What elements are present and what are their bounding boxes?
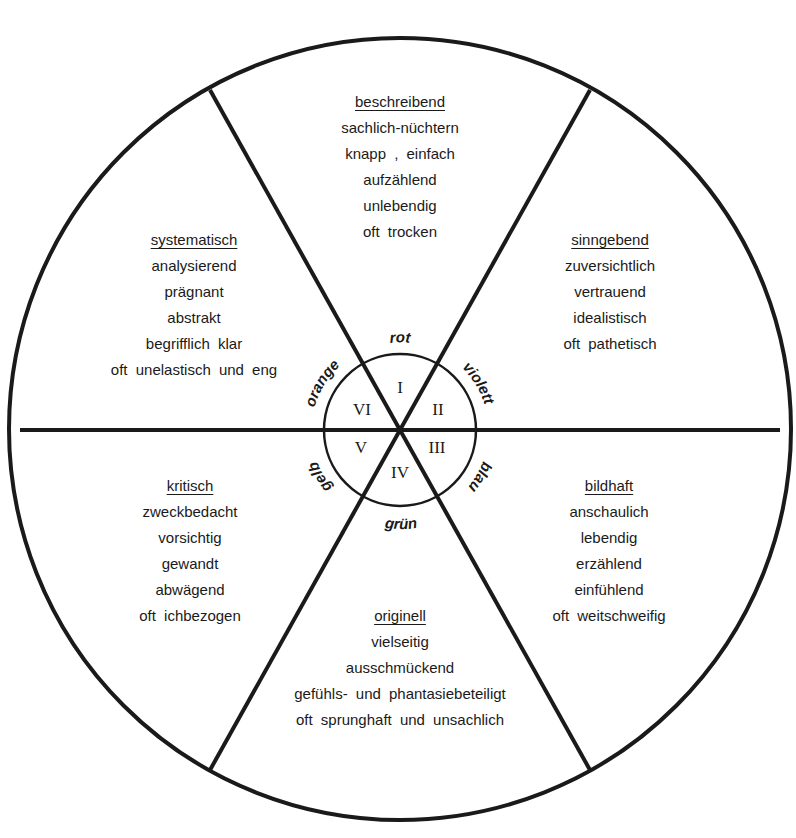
- color-label-rot: rot: [389, 328, 412, 346]
- sector-trait: idealistisch: [563, 305, 656, 331]
- sector-trait: abwägend: [139, 577, 241, 603]
- sector-title: beschreibend: [341, 89, 459, 115]
- sector-trait: oft weitschweifig: [552, 603, 665, 629]
- numeral-IV: IV: [391, 463, 410, 482]
- numeral-III: III: [429, 438, 446, 457]
- sector-trait: oft ichbezogen: [139, 603, 241, 629]
- sector-trait: oft sprunghaft und unsachlich: [294, 707, 505, 733]
- sector-title: systematisch: [111, 227, 277, 253]
- color-label-blau: blau: [465, 460, 496, 496]
- sector-trait: oft pathetisch: [563, 331, 656, 357]
- sector-trait: knapp , einfach: [341, 141, 459, 167]
- sector-title: kritisch: [139, 473, 241, 499]
- sector-trait: oft trocken: [341, 219, 459, 245]
- color-label-orange: orange: [301, 356, 342, 409]
- numeral-II: II: [432, 400, 444, 419]
- sector-trait: erzählend: [552, 551, 665, 577]
- sector-trait: abstrakt: [111, 305, 277, 331]
- sector-trait: sachlich-nüchtern: [341, 115, 459, 141]
- sector-trait: ausschmückend: [294, 655, 505, 681]
- color-label-gelb: gelb: [304, 460, 335, 497]
- sector-trait: begrifflich klar: [111, 331, 277, 357]
- sector-title: sinngebend: [563, 227, 656, 253]
- sector-V-kritisch: kritisch zweckbedacht vorsichtig gewandt…: [139, 473, 241, 629]
- sector-trait: prägnant: [111, 279, 277, 305]
- sector-trait: vertrauend: [563, 279, 656, 305]
- sector-title: originell: [294, 603, 505, 629]
- color-label-violett: violett: [460, 358, 499, 407]
- sector-trait: gefühls- und phantasiebeteiligt: [294, 681, 505, 707]
- sector-II-sinngebend: sinngebend zuversichtlich vertrauend ide…: [563, 227, 656, 357]
- sector-trait: anschaulich: [552, 499, 665, 525]
- sector-trait: analysierend: [111, 253, 277, 279]
- numeral-I: I: [397, 378, 403, 397]
- sector-III-bildhaft: bildhaft anschaulich lebendig erzählend …: [552, 473, 665, 629]
- numeral-VI: VI: [353, 400, 371, 419]
- sector-trait: gewandt: [139, 551, 241, 577]
- sector-trait: zweckbedacht: [139, 499, 241, 525]
- sector-trait: zuversichtlich: [563, 253, 656, 279]
- sector-trait: einfühlend: [552, 577, 665, 603]
- sector-IV-originell: originell vielseitig ausschmückend gefüh…: [294, 603, 505, 733]
- sector-trait: unlebendig: [341, 193, 459, 219]
- sector-trait: vielseitig: [294, 629, 505, 655]
- sector-trait: lebendig: [552, 525, 665, 551]
- sector-title: bildhaft: [552, 473, 665, 499]
- sector-I-beschreibend: beschreibend sachlich-nüchtern knapp , e…: [341, 89, 459, 245]
- sector-trait: aufzählend: [341, 167, 459, 193]
- color-label-gruen: grün: [383, 514, 418, 533]
- sector-trait: vorsichtig: [139, 525, 241, 551]
- numeral-V: V: [355, 438, 368, 457]
- sector-trait: oft unelastisch und eng: [111, 357, 277, 383]
- sector-VI-systematisch: systematisch analysierend prägnant abstr…: [111, 227, 277, 383]
